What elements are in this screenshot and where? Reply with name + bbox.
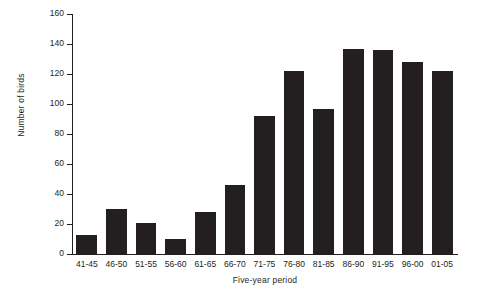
- x-tick-label: 86-90: [339, 259, 369, 269]
- y-tick-label: 80: [55, 129, 64, 138]
- x-tick-label: 01-05: [427, 259, 457, 269]
- y-tick-mark: [67, 224, 72, 225]
- x-tick-label: 56-60: [161, 259, 191, 269]
- x-tick-label: 81-85: [309, 259, 339, 269]
- bar: [225, 185, 246, 254]
- y-axis-title: Number of birds: [16, 40, 26, 170]
- x-tick-label: 96-00: [398, 259, 428, 269]
- x-tick-label: 66-70: [220, 259, 250, 269]
- x-tick-label: 46-50: [102, 259, 132, 269]
- bar: [195, 212, 216, 254]
- bar: [284, 71, 305, 254]
- y-tick-label: 100: [50, 99, 64, 108]
- y-tick-mark: [67, 164, 72, 165]
- x-tick-label: 71-75: [250, 259, 280, 269]
- x-tick-label: 91-95: [368, 259, 398, 269]
- bar: [76, 235, 97, 255]
- x-tick-label: 76-80: [279, 259, 309, 269]
- y-tick-label: 120: [50, 69, 64, 78]
- y-tick-label: 140: [50, 39, 64, 48]
- bar: [343, 49, 364, 255]
- x-axis-title: Five-year period: [72, 275, 458, 285]
- y-tick-mark: [67, 44, 72, 45]
- bar: [136, 223, 157, 255]
- y-tick-mark: [67, 254, 72, 255]
- plot-area: [72, 14, 457, 254]
- y-tick-mark: [67, 74, 72, 75]
- y-tick-mark: [67, 134, 72, 135]
- bar: [313, 109, 334, 255]
- y-axis-tick-labels: 020406080100120140160: [40, 0, 64, 297]
- y-tick-mark: [67, 14, 72, 15]
- y-tick-mark: [67, 194, 72, 195]
- y-tick-label: 160: [50, 9, 64, 18]
- x-axis-line: [72, 254, 458, 255]
- bar: [106, 209, 127, 254]
- x-tick-label: 41-45: [72, 259, 102, 269]
- y-tick-label: 20: [55, 219, 64, 228]
- y-tick-label: 60: [55, 159, 64, 168]
- y-tick-mark: [67, 104, 72, 105]
- x-tick-label: 51-55: [131, 259, 161, 269]
- bar: [373, 50, 394, 254]
- bar: [432, 71, 453, 254]
- bar: [402, 62, 423, 254]
- x-tick-label: 61-65: [190, 259, 220, 269]
- bar-chart: Number of birds 020406080100120140160 41…: [0, 0, 484, 297]
- y-tick-label: 40: [55, 189, 64, 198]
- y-tick-label: 0: [59, 249, 64, 258]
- bar: [165, 239, 186, 254]
- bar: [254, 116, 275, 254]
